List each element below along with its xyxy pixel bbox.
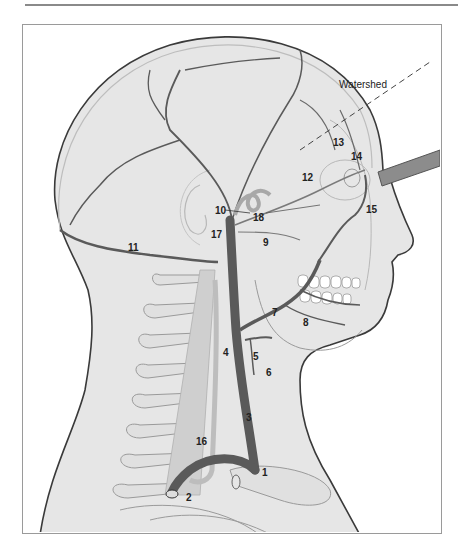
label-18: 18 bbox=[253, 213, 264, 223]
anatomy-illustration bbox=[0, 0, 458, 558]
label-5: 5 bbox=[253, 352, 259, 362]
doppler-probe bbox=[378, 150, 440, 186]
label-6: 6 bbox=[266, 368, 272, 378]
label-15: 15 bbox=[366, 205, 377, 215]
label-10: 10 bbox=[215, 206, 226, 216]
label-8: 8 bbox=[303, 318, 309, 328]
label-2: 2 bbox=[186, 493, 192, 503]
label-12: 12 bbox=[302, 173, 313, 183]
label-1: 1 bbox=[262, 468, 268, 478]
label-13: 13 bbox=[333, 138, 344, 148]
label-7: 7 bbox=[272, 308, 278, 318]
label-3: 3 bbox=[246, 413, 252, 423]
label-11: 11 bbox=[128, 243, 139, 253]
label-4: 4 bbox=[223, 348, 229, 358]
label-9: 9 bbox=[263, 238, 269, 248]
watershed-label: Watershed bbox=[339, 80, 387, 90]
label-17: 17 bbox=[211, 230, 222, 240]
label-14: 14 bbox=[351, 152, 362, 162]
label-16: 16 bbox=[196, 437, 207, 447]
